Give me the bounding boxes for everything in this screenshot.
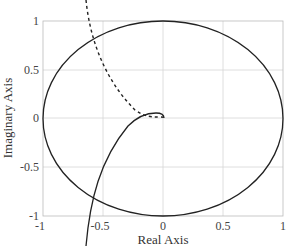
nyquist-dashed — [86, 0, 165, 118]
svg-text:-0.5: -0.5 — [20, 160, 39, 174]
svg-text:0: 0 — [33, 111, 39, 125]
grid — [43, 21, 283, 216]
svg-text:1: 1 — [280, 219, 286, 233]
y-tick-labels: 1 0.5 0 -0.5 -1 — [20, 14, 39, 223]
y-axis-label: Imaginary Axis — [0, 78, 15, 159]
svg-text:0.5: 0.5 — [216, 219, 231, 233]
svg-text:0.5: 0.5 — [24, 63, 39, 77]
svg-text:-0.5: -0.5 — [91, 219, 110, 233]
svg-text:-1: -1 — [35, 219, 45, 233]
x-tick-labels: -1 -0.5 0 0.5 1 — [35, 219, 286, 233]
nyquist-chart: 1 0.5 0 -0.5 -1 -1 -0.5 0 0.5 1 Real Axi… — [0, 0, 288, 246]
svg-text:1: 1 — [33, 14, 39, 28]
svg-text:0: 0 — [160, 219, 166, 233]
x-axis-label: Real Axis — [138, 232, 189, 246]
